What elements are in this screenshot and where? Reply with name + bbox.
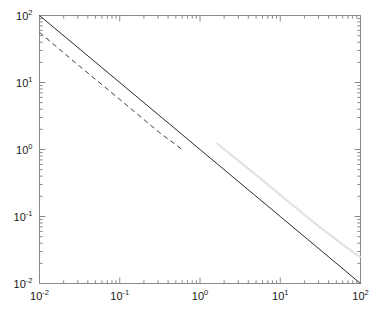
y-tick-label-exponent: -2 <box>26 276 33 285</box>
data-series-group <box>40 16 361 284</box>
y-tick-label-exponent: 0 <box>28 142 32 151</box>
chart-figure: 10-210-110010110210210110010-110-2 <box>0 0 377 320</box>
y-tick-label: 10-2 <box>14 276 33 290</box>
y-tick-labels: 10210110010-110-2 <box>14 8 33 290</box>
series-light-gray-curve <box>216 143 360 257</box>
y-tick-label: 102 <box>16 8 32 22</box>
x-tick-label: 10-1 <box>110 288 129 302</box>
y-tick-label-exponent: 2 <box>28 8 32 17</box>
y-tick-label-exponent: -1 <box>26 209 33 218</box>
y-tick-label: 100 <box>16 142 32 156</box>
series-solid-reference-line <box>40 16 361 284</box>
y-tick-label: 10-1 <box>14 209 33 223</box>
x-tick-label: 100 <box>192 288 208 302</box>
x-tick-label: 10-2 <box>30 288 49 302</box>
x-tick-label-exponent: -2 <box>42 288 49 297</box>
y-tick-label-exponent: 1 <box>28 75 32 84</box>
x-tick-label-exponent: 0 <box>204 288 208 297</box>
x-tick-label-exponent: 1 <box>284 288 288 297</box>
y-tick-label: 101 <box>16 75 32 89</box>
series-dashed-line <box>40 32 183 149</box>
x-tick-labels: 10-210-1100101102 <box>30 288 369 302</box>
x-tick-label-exponent: -1 <box>123 288 130 297</box>
x-tick-label-exponent: 2 <box>365 288 369 297</box>
x-tick-label: 102 <box>352 288 368 302</box>
x-tick-label: 101 <box>272 288 288 302</box>
log-log-plot: 10-210-110010110210210110010-110-2 <box>0 0 377 320</box>
